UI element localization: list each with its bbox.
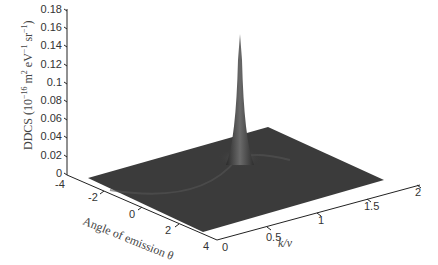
svg-text:0.12: 0.12 — [41, 58, 62, 70]
kv-axis-label: k/v — [278, 236, 293, 250]
surface-plot: 0 0.02 0.04 0.06 0.08 0.1 0.12 0.14 0.16… — [0, 0, 438, 265]
svg-text:0.02: 0.02 — [41, 149, 62, 161]
svg-text:4: 4 — [203, 240, 209, 252]
svg-text:0: 0 — [222, 241, 228, 253]
surface — [88, 34, 384, 232]
svg-text:0: 0 — [129, 208, 135, 220]
svg-text:0.16: 0.16 — [41, 21, 62, 33]
svg-text:-4: -4 — [55, 178, 65, 190]
svg-text:0.1: 0.1 — [47, 76, 62, 88]
svg-text:2: 2 — [165, 224, 171, 236]
z-axis-ticks: 0 0.02 0.04 0.06 0.08 0.1 0.12 0.14 0.16… — [41, 3, 67, 179]
svg-text:1.5: 1.5 — [364, 200, 379, 212]
svg-text:0.18: 0.18 — [41, 3, 62, 15]
svg-text:0.08: 0.08 — [41, 94, 62, 106]
svg-text:1: 1 — [318, 214, 324, 226]
z-axis-label: DDCS (10−16 m2 eV−1 sr−1) — [20, 20, 35, 150]
svg-text:0.06: 0.06 — [41, 112, 62, 124]
svg-text:0.14: 0.14 — [41, 39, 62, 51]
theta-axis-label: Angle of emission θ — [81, 214, 176, 263]
svg-text:0.04: 0.04 — [41, 130, 62, 142]
svg-text:2: 2 — [415, 186, 421, 198]
svg-text:-2: -2 — [88, 191, 98, 203]
